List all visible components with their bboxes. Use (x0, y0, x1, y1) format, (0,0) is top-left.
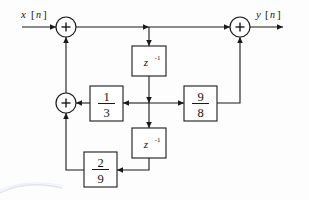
wire-input-to-adder (22, 24, 56, 30)
input-label: x [ n ] (20, 8, 47, 20)
input-bracket-close: ] (43, 8, 47, 20)
delay-1-base: z (143, 56, 149, 68)
gain-one-third-numerator: 1 (103, 90, 109, 104)
wire-top-rail (76, 24, 230, 30)
wire-junction-to-gain-nine-eighths (149, 100, 184, 106)
wire-adder-to-output (250, 24, 283, 30)
wire-adder-feedback-to-adder-input (63, 37, 69, 93)
wire-gain-nine-eighths-to-adder-output (217, 37, 243, 103)
delay-2-exponent: -1 (155, 136, 161, 144)
wire-gain-two-ninths-to-adder-feedback (63, 113, 84, 170)
output-bracket-open: [ (265, 8, 269, 20)
gain-one-third-denominator: 3 (103, 106, 109, 120)
output-bracket-close: ] (277, 8, 281, 20)
gain-two-ninths-denominator: 9 (97, 172, 103, 186)
delay-1-exponent: -1 (155, 54, 161, 62)
wire-delay1-to-junction (146, 76, 152, 103)
signal-flow-diagram: z -1 z -1 1 3 9 8 2 9 x (0, 0, 309, 200)
scan-artifact (0, 183, 64, 196)
wire-junction-to-gain-one-third (123, 100, 149, 106)
adder-input[interactable] (56, 17, 76, 37)
adder-feedback[interactable] (56, 93, 76, 113)
figure-canvas: z -1 z -1 1 3 9 8 2 9 x (0, 0, 309, 200)
wire-gain-one-third-to-adder (76, 100, 90, 106)
output-label: y [ n ] (255, 8, 281, 20)
wire-delay2-to-gain-two-ninths (117, 158, 149, 173)
gain-nine-eighths-denominator: 8 (197, 106, 203, 120)
gain-block-nine-eighths[interactable]: 9 8 (184, 86, 217, 121)
input-index: n (36, 9, 41, 20)
gain-nine-eighths-numerator: 9 (197, 90, 203, 104)
gain-block-two-ninths[interactable]: 2 9 (84, 152, 117, 187)
gain-block-one-third[interactable]: 1 3 (90, 86, 123, 121)
delay-block-1[interactable]: z -1 (132, 46, 166, 76)
output-index: n (270, 9, 275, 20)
gain-two-ninths-numerator: 2 (97, 156, 103, 170)
wire-branch-to-delay1 (146, 27, 152, 46)
input-variable: x (20, 8, 26, 20)
output-variable: y (255, 8, 261, 20)
input-bracket-open: [ (31, 8, 35, 20)
delay-2-base: z (143, 138, 149, 150)
adder-output[interactable] (230, 17, 250, 37)
delay-block-2[interactable]: z -1 (132, 128, 166, 158)
wire-junction-to-delay2 (146, 103, 152, 128)
